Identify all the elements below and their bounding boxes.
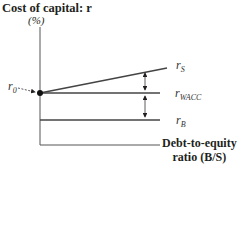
- x-axis-title: Debt-to-equity ratio (B/S): [162, 136, 237, 164]
- rwacc-label: rWACC: [175, 86, 201, 102]
- rs-label: rS: [176, 58, 185, 74]
- rb-label: rB: [176, 113, 186, 129]
- r0-pointer-arrow: [18, 88, 35, 92]
- r0-label: r0: [8, 79, 17, 95]
- r0-intercept-dot: [37, 90, 43, 96]
- rs-line: [40, 68, 167, 93]
